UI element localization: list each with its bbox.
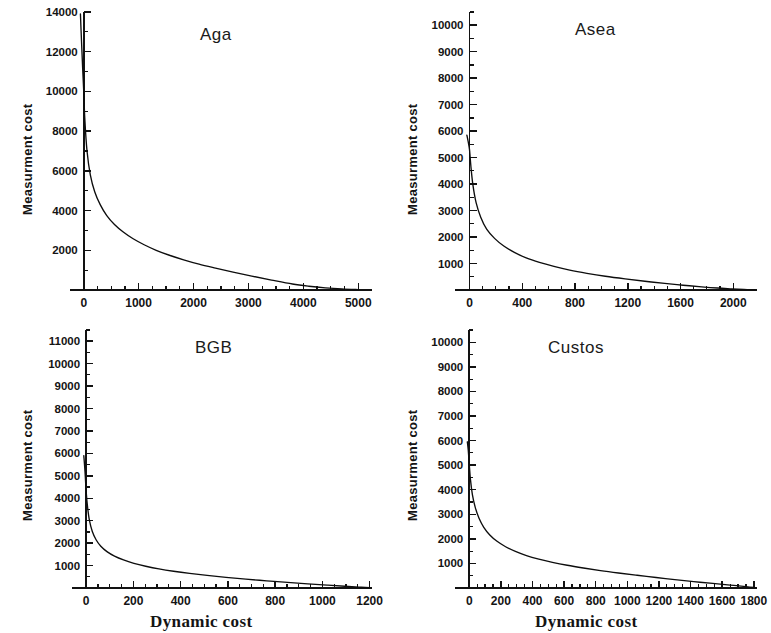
data-curve <box>84 456 370 588</box>
axis-lines <box>455 330 757 588</box>
panel-asea-plot <box>385 0 771 317</box>
axis-lines <box>455 12 757 290</box>
multi-panel-figure: Measurment cost Aga 20004000600080001000… <box>0 0 771 633</box>
axis-lines <box>72 330 372 588</box>
axis-lines <box>70 12 372 290</box>
panel-custos: Measurment cost Custos 10002000300040005… <box>385 316 771 633</box>
data-curve <box>467 135 754 290</box>
panel-asea: Measurment cost Asea 1000200030004000500… <box>385 0 771 317</box>
panel-custos-plot <box>385 316 771 633</box>
panel-aga-plot <box>0 0 386 317</box>
panel-bgb-plot <box>0 316 386 633</box>
panel-aga: Measurment cost Aga 20004000600080001000… <box>0 0 386 317</box>
panel-bgb: Measurment cost BGB 10002000300040005000… <box>0 316 386 633</box>
data-curve <box>80 14 358 290</box>
data-curve <box>467 442 755 588</box>
